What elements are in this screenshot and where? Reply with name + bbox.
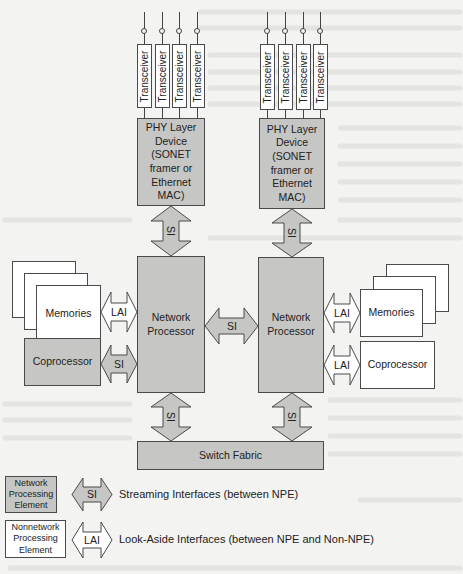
np-label: Network bbox=[152, 311, 191, 325]
transceiver-label: Transceiver bbox=[262, 51, 273, 103]
si-label: SI bbox=[220, 318, 244, 334]
legend-lai-label: LAI bbox=[78, 531, 106, 549]
legend-npe-label: Processing bbox=[9, 489, 54, 500]
memories-label: Memories bbox=[45, 307, 91, 321]
phy-label: PHY Layer bbox=[267, 123, 318, 137]
phy-device-left: PHY Layer Device (SONET framer or Ethern… bbox=[137, 118, 205, 206]
np-label: Processor bbox=[147, 325, 194, 339]
phy-label: framer or bbox=[271, 164, 314, 178]
phy-label: (SONET bbox=[151, 148, 191, 162]
port-circle-icon bbox=[264, 28, 270, 34]
coprocessor-label: Coprocessor bbox=[33, 355, 93, 369]
legend-npe-label: Network bbox=[14, 478, 47, 489]
transceiver-label: Transceiver bbox=[280, 51, 291, 103]
phy-label: framer or bbox=[150, 162, 193, 176]
line-connector bbox=[285, 110, 286, 118]
line-connector bbox=[144, 108, 145, 118]
port-circle-icon bbox=[159, 28, 165, 34]
coprocessor-right: Coprocessor bbox=[360, 341, 435, 389]
si-label: SI bbox=[285, 407, 299, 427]
legend-si-label: SI bbox=[80, 486, 104, 502]
port-circle-icon bbox=[176, 28, 182, 34]
phy-label: Device bbox=[276, 136, 308, 150]
lai-label: LAI bbox=[328, 304, 356, 322]
line-connector bbox=[267, 110, 268, 118]
phy-label: (SONET bbox=[272, 150, 312, 164]
si-label: SI bbox=[164, 407, 178, 427]
np-label: Processor bbox=[267, 325, 314, 339]
network-processor-left: Network Processor bbox=[137, 256, 205, 393]
port-circle-icon bbox=[317, 28, 323, 34]
transceiver-label: Transceiver bbox=[315, 51, 326, 103]
legend-non-npe-swatch: Nonnetwork Processing Element bbox=[5, 520, 66, 558]
si-label: SI bbox=[105, 356, 133, 372]
port-circle-icon bbox=[194, 28, 200, 34]
transceiver-box: Transceiver bbox=[190, 44, 205, 108]
transceiver-label: Transceiver bbox=[174, 50, 185, 102]
legend-lai-description: Look-Aside Interfaces (between NPE and N… bbox=[119, 533, 374, 545]
switch-fabric-label: Switch Fabric bbox=[199, 449, 262, 463]
phy-label: Ethernet bbox=[272, 177, 312, 191]
legend-non-npe-label: Processing bbox=[13, 533, 58, 544]
port-circle-icon bbox=[141, 28, 147, 34]
memories-right: Memories bbox=[360, 289, 423, 337]
transceiver-label: Transceiver bbox=[192, 50, 203, 102]
lai-label: LAI bbox=[105, 303, 133, 321]
si-label: SI bbox=[285, 223, 299, 243]
legend-npe-swatch: Network Processing Element bbox=[5, 476, 57, 513]
si-label: SI bbox=[164, 221, 178, 241]
transceiver-label: Transceiver bbox=[157, 50, 168, 102]
phy-device-right: PHY Layer Device (SONET framer or Ethern… bbox=[259, 118, 325, 209]
memories-label: Memories bbox=[368, 306, 414, 320]
line-connector bbox=[320, 110, 321, 118]
transceiver-box: Transceiver bbox=[278, 44, 293, 110]
port-circle-icon bbox=[282, 28, 288, 34]
transceiver-box: Transceiver bbox=[137, 44, 152, 108]
memories-left: Memories bbox=[36, 285, 101, 343]
legend-si-description: Streaming Interfaces (between NPE) bbox=[119, 488, 298, 500]
lai-label: LAI bbox=[328, 356, 356, 374]
phy-label: Ethernet bbox=[151, 176, 191, 190]
transceiver-label: Transceiver bbox=[298, 51, 309, 103]
network-processor-right: Network Processor bbox=[258, 257, 324, 393]
coprocessor-left: Coprocessor bbox=[24, 338, 101, 386]
legend-non-npe-label: Element bbox=[19, 545, 52, 556]
transceiver-box: Transceiver bbox=[296, 44, 311, 110]
port-circle-icon bbox=[300, 28, 306, 34]
transceiver-box: Transceiver bbox=[155, 44, 170, 108]
phy-label: MAC) bbox=[279, 191, 306, 205]
legend-non-npe-label: Nonnetwork bbox=[11, 522, 59, 533]
phy-label: PHY Layer bbox=[146, 121, 197, 135]
phy-label: MAC) bbox=[158, 189, 185, 203]
line-connector bbox=[179, 108, 180, 118]
coprocessor-label: Coprocessor bbox=[368, 358, 428, 372]
switch-fabric: Switch Fabric bbox=[137, 441, 324, 470]
transceiver-box: Transceiver bbox=[313, 44, 328, 110]
transceiver-label: Transceiver bbox=[139, 50, 150, 102]
line-connector bbox=[303, 110, 304, 118]
line-connector bbox=[162, 108, 163, 118]
np-label: Network bbox=[272, 311, 311, 325]
transceiver-box: Transceiver bbox=[172, 44, 187, 108]
transceiver-box: Transceiver bbox=[260, 44, 275, 110]
legend-npe-label: Element bbox=[14, 500, 47, 511]
phy-label: Device bbox=[155, 135, 187, 149]
line-connector bbox=[197, 108, 198, 118]
